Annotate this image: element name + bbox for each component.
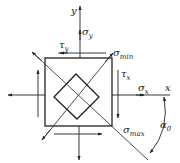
stress-element-diagram: y σy τy σmin σmax τx σx x (0, 0, 180, 163)
x-axis-label: x (165, 82, 171, 93)
principal-element-diamond (54, 74, 99, 119)
tau-x-label: τx (121, 68, 131, 82)
sigma-x-label: σx (138, 82, 149, 96)
tau-y-label: τy (59, 39, 70, 53)
y-axis-label: y (70, 5, 77, 16)
sigma-min-label: σmin (113, 47, 134, 61)
angle-alpha0-label: α0 (160, 119, 172, 133)
sigma-max-label: σmax (123, 124, 145, 138)
stress-element-square (45, 58, 112, 126)
sigma-y-label: σy (82, 26, 94, 40)
sigma-max-line (32, 52, 148, 160)
sigma-min-line (42, 53, 113, 140)
